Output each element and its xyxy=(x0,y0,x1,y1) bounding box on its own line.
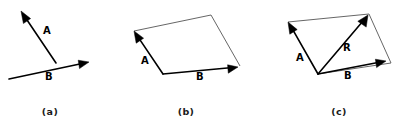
vector-r-label-panel-c: R xyxy=(343,42,351,53)
vector-a-arrow-panel-b xyxy=(134,31,163,74)
vector-a-arrowhead-panel-b xyxy=(134,31,144,43)
vector-a-label-panel-c: A xyxy=(296,52,304,63)
panel-a: A B (a) xyxy=(9,11,89,117)
parallelogram-edge-right-panel-b xyxy=(211,15,240,66)
vector-b-label-panel-c: B xyxy=(344,70,352,81)
vector-b-label-panel-b: B xyxy=(196,71,204,82)
vector-b-arrowhead-panel-b xyxy=(228,65,238,73)
vector-a-shaft-panel-a xyxy=(25,16,57,63)
vector-a-arrowhead-panel-c xyxy=(288,22,297,34)
vector-a-label-panel-a: A xyxy=(43,25,51,36)
panel-caption-c: (c) xyxy=(331,106,347,117)
vector-b-arrowhead-panel-c xyxy=(375,59,386,67)
panel-b: A B (b) xyxy=(134,15,240,117)
vector-b-label-panel-a: B xyxy=(45,71,53,82)
parallelogram-edge-top-panel-c xyxy=(288,14,369,22)
panel-caption-b: (b) xyxy=(178,106,195,117)
vector-a-arrow-panel-a xyxy=(21,11,56,63)
vector-figure: A B (a) A B (b) xyxy=(0,0,403,126)
parallelogram-edge-top-panel-b xyxy=(134,15,211,31)
vector-diagram-canvas: A B (a) A B (b) xyxy=(0,0,403,126)
panel-c: A B R (c) xyxy=(288,14,391,117)
vector-a-arrow-panel-c xyxy=(288,22,318,74)
panel-caption-a: (a) xyxy=(42,106,58,117)
vector-a-arrowhead-panel-a xyxy=(21,11,31,24)
vector-a-label-panel-b: A xyxy=(141,55,149,66)
vector-b-arrowhead-panel-a xyxy=(78,60,89,68)
parallelogram-edge-right-panel-c xyxy=(369,14,391,63)
vector-a-shaft-panel-c xyxy=(292,28,318,74)
